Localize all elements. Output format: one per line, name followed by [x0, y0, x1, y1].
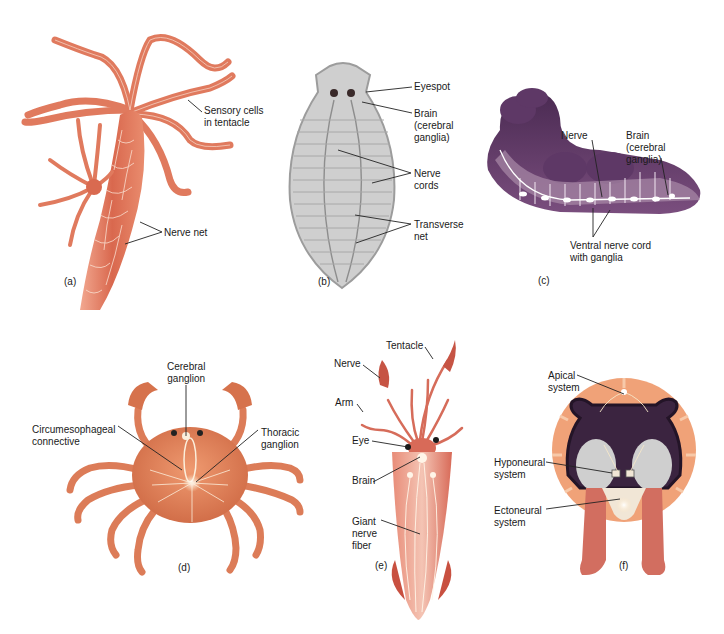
label-apical-system: Apical system — [548, 370, 580, 394]
caption-c: (c) — [538, 275, 550, 287]
flatworm-illustration — [290, 63, 395, 288]
caption-f: (f) — [619, 560, 628, 572]
label-cerebral-ganglion: Cerebral ganglion — [167, 361, 205, 385]
label-eyespot: Eyespot — [414, 81, 450, 93]
label-arm: Arm — [335, 397, 353, 409]
label-transverse-net: Transverse net — [414, 219, 464, 243]
caption-d: (d) — [178, 562, 190, 574]
label-earthworm-nerve: Nerve — [561, 130, 588, 142]
label-flatworm-brain: Brain (cerebral ganglia) — [414, 108, 453, 144]
label-squid-nerve: Nerve — [334, 358, 361, 370]
crab-illustration — [70, 382, 300, 572]
label-squid-brain: Brain — [352, 475, 375, 487]
label-giant-nerve-fiber: Giant nerve fiber — [352, 516, 377, 552]
caption-a: (a) — [64, 276, 76, 288]
label-ventral-nerve-cord: Ventral nerve cord with ganglia — [570, 240, 651, 264]
hydra-illustration — [25, 38, 232, 311]
label-ectoneural-system: Ectoneural system — [494, 505, 542, 529]
caption-b: (b) — [318, 276, 330, 288]
label-earthworm-brain: Brain (cerebral ganglia) — [626, 130, 665, 166]
label-eye: Eye — [352, 435, 369, 447]
label-nerve-cords: Nerve cords — [414, 168, 441, 192]
label-thoracic-ganglion: Thoracic ganglion — [261, 427, 299, 451]
label-nerve-net: Nerve net — [164, 227, 207, 239]
label-circumesophageal-connective: Circumesophageal connective — [32, 424, 115, 448]
label-sensory-cells: Sensory cells in tentacle — [204, 105, 263, 129]
label-tentacle: Tentacle — [386, 340, 423, 352]
label-hyponeural-system: Hyponeural system — [494, 457, 545, 481]
seastar-illustration — [552, 378, 696, 575]
caption-e: (e) — [375, 560, 387, 572]
